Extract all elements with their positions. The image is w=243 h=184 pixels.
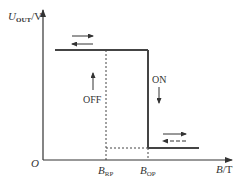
origin-label: O (31, 157, 39, 169)
on-label: ON (152, 74, 166, 85)
brp-label: BRP (98, 164, 113, 178)
y-axis-label: UOUT/V (8, 10, 42, 24)
hysteresis-diagram: UOUT/V OFF ON O BRP BOP B/T (0, 0, 243, 184)
bop-label: BOP (140, 164, 156, 178)
x-axis-label: B/T (216, 163, 233, 175)
off-label: OFF (83, 94, 102, 105)
